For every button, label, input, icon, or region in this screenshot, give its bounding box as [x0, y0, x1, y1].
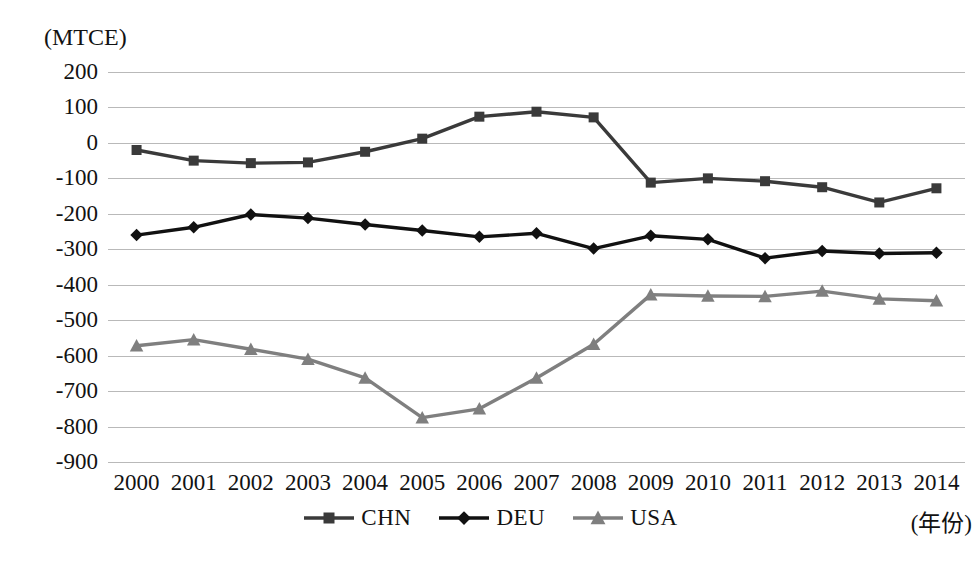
y-axis-tick-label: 200 [64, 59, 99, 85]
x-axis-tick-label: 2008 [571, 470, 617, 496]
legend-marker-triangle-icon [571, 508, 625, 528]
gridline [108, 462, 965, 463]
x-axis-tick-label: 2007 [514, 470, 560, 496]
y-axis-tick-label: -800 [56, 414, 98, 440]
y-axis-tick-label: -200 [56, 201, 98, 227]
data-point-marker [416, 224, 429, 237]
series-deu [130, 208, 942, 264]
data-point-marker [245, 208, 257, 221]
series-usa [130, 284, 943, 423]
data-point-marker [702, 233, 715, 246]
data-point-marker [532, 107, 542, 117]
data-point-marker [817, 182, 827, 192]
legend-item-chn[interactable]: CHN [302, 505, 411, 531]
legend-item-usa[interactable]: USA [571, 505, 678, 531]
y-axis-unit-label: (MTCE) [44, 24, 127, 51]
chart-page: (MTCE) 2001000-100-200-300-400-500-600-7… [0, 0, 980, 569]
y-axis-tick-label: -900 [56, 449, 98, 475]
data-point-marker [474, 112, 484, 122]
x-axis-tick-label: 2011 [742, 470, 787, 496]
data-point-marker [759, 252, 772, 264]
data-point-marker [589, 112, 599, 122]
data-point-marker [760, 176, 770, 186]
legend-label: DEU [496, 505, 545, 531]
x-axis-tick-label: 2000 [114, 470, 160, 496]
data-point-marker [187, 221, 200, 234]
data-point-marker [816, 245, 829, 258]
x-axis-tick-label: 2002 [228, 470, 274, 496]
series-line [137, 112, 937, 203]
data-point-marker [324, 513, 335, 524]
data-point-marker [302, 212, 315, 225]
x-axis-tick-label: 2005 [399, 470, 445, 496]
data-point-marker [417, 134, 427, 144]
legend-item-deu[interactable]: DEU [437, 505, 545, 531]
data-point-marker [360, 147, 370, 157]
x-axis-tick-label: 2013 [856, 470, 902, 496]
data-point-marker [130, 229, 143, 242]
x-axis-tick-label: 2009 [628, 470, 674, 496]
data-point-marker [874, 197, 884, 207]
x-axis-tick-label: 2006 [456, 470, 502, 496]
data-point-marker [132, 145, 142, 155]
data-point-marker [359, 218, 372, 231]
legend-label: USA [630, 505, 678, 531]
y-axis-tick-label: -300 [56, 236, 98, 262]
x-axis-tick-label: 2012 [799, 470, 845, 496]
data-point-marker [246, 158, 256, 168]
data-point-marker [473, 231, 486, 244]
legend-label: CHN [361, 505, 411, 531]
legend-marker-square-icon [302, 508, 356, 528]
chart-legend: CHNDEUUSA [0, 505, 980, 531]
legend-marker-diamond-icon [437, 508, 491, 528]
data-point-marker [646, 178, 656, 188]
x-axis-tick-label: 2004 [342, 470, 388, 496]
x-axis-tick-label: 2001 [171, 470, 217, 496]
data-point-marker [530, 371, 544, 383]
series-chn [132, 107, 942, 208]
x-axis-tick-label: 2010 [685, 470, 731, 496]
data-point-marker [530, 227, 543, 240]
y-axis-tick-label: 0 [87, 130, 99, 156]
data-point-marker [189, 156, 199, 166]
y-axis-tick-label: -400 [56, 272, 98, 298]
data-point-marker [873, 247, 886, 260]
y-axis-tick-label: -500 [56, 307, 98, 333]
data-point-marker [931, 183, 941, 193]
x-axis-tick-labels: 2000200120022003200420052006200720082009… [108, 470, 965, 500]
x-axis-tick-label: 2014 [913, 470, 959, 496]
data-point-marker [587, 242, 600, 255]
y-axis-tick-label: -600 [56, 343, 98, 369]
y-axis-tick-label: -100 [56, 165, 98, 191]
data-point-marker [458, 511, 472, 525]
series-group [108, 72, 965, 462]
y-axis-tick-label: -700 [56, 378, 98, 404]
x-axis-tick-label: 2003 [285, 470, 331, 496]
data-point-marker [703, 173, 713, 183]
plot-area [108, 72, 965, 462]
y-axis-tick-label: 100 [64, 94, 99, 120]
data-point-marker [645, 230, 658, 243]
data-point-marker [930, 247, 943, 260]
data-point-marker [303, 157, 313, 167]
